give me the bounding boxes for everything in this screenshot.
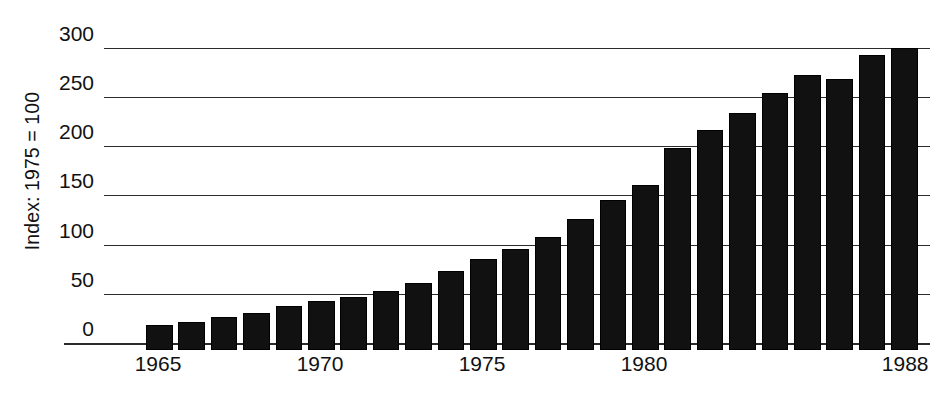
bar-chart: Index: 1975 = 100 050100150200250300 196… [0,0,948,400]
x-axis-tick-label: 1988 [870,352,940,376]
bar [340,297,367,350]
y-axis-tick-label: 0 [30,318,94,339]
bar [308,301,335,350]
bar [178,322,205,350]
bar [373,291,400,350]
bar [438,271,465,350]
bar [600,200,627,350]
x-axis-tick-label: 1970 [285,352,355,376]
bar [859,55,886,350]
bar [826,79,853,350]
bar-series [104,28,930,350]
y-axis-tick-label: 50 [30,269,94,290]
bar [276,306,303,350]
x-axis-tick-label: 1980 [609,352,679,376]
bar [697,130,724,350]
bar [632,185,659,350]
bar [567,219,594,350]
plot-area [104,28,930,350]
bar [794,75,821,350]
x-axis-tick-labels: 19651970197519801988 [104,352,948,382]
y-axis-tick-label: 250 [30,72,94,93]
bar [729,113,756,350]
bar [762,93,789,350]
x-axis-tick-label: 1975 [447,352,517,376]
bar [470,259,497,350]
y-axis-tick-label: 300 [30,23,94,44]
bar [502,249,529,350]
bar [211,317,238,350]
x-axis-tick-label: 1965 [123,352,193,376]
y-axis-tick-label: 100 [30,220,94,241]
y-axis-tick-label: 150 [30,170,94,191]
bar [891,48,918,350]
bar [535,237,562,350]
bar [146,325,173,350]
y-axis-tick-label: 200 [30,121,94,142]
bar [405,283,432,350]
bar [243,313,270,350]
bar [664,148,691,350]
